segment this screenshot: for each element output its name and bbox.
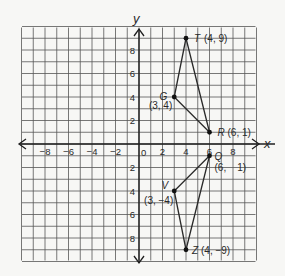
- y-tick-label: 2: [130, 162, 135, 173]
- vertex-point-z: [184, 247, 189, 252]
- vertex-label-z: Z: [191, 245, 199, 256]
- vertex-coordinate-label-q: (6, 1): [215, 162, 247, 173]
- y-tick-label: 4: [130, 186, 135, 197]
- vertex-point-t: [184, 36, 189, 41]
- y-axis-label: y: [132, 11, 141, 26]
- x-tick-label: −6: [63, 146, 74, 157]
- vertex-label-r: R: [218, 127, 225, 138]
- x-tick-label: −4: [87, 146, 98, 157]
- vertex-point-q: [207, 153, 212, 158]
- vertex-point-v: [172, 189, 177, 194]
- origin-label: 0: [141, 147, 146, 158]
- vertex-label-q: Q: [215, 151, 223, 162]
- coordinate-plane: x y 0 −8−6−4−2246824682468 T(4, 9)G(3, 4…: [0, 0, 285, 276]
- x-tick-label: −8: [40, 146, 51, 157]
- vertex-coordinate-label-r: (6, 1): [228, 127, 251, 138]
- x-tick-label: 8: [230, 146, 235, 157]
- vertex-coordinate-label-t: (4, 9): [204, 33, 227, 44]
- y-tick-label: 4: [130, 92, 135, 103]
- vertex-coordinate-label-g: (3, 4): [149, 100, 172, 111]
- vertex-label-v: V: [162, 180, 170, 191]
- y-tick-label: 8: [130, 45, 135, 56]
- x-tick-label: 4: [183, 146, 188, 157]
- y-tick-label: 2: [130, 115, 135, 126]
- vertex-point-g: [172, 95, 177, 100]
- x-axis-label: x: [263, 136, 271, 151]
- x-tick-label: 2: [160, 146, 165, 157]
- vertex-coordinate-label-z: (4, −9): [201, 245, 230, 256]
- vertex-label-t: T: [194, 33, 201, 44]
- y-tick-label: 8: [130, 233, 135, 244]
- vertex-coordinate-label-v: (3, −4): [144, 195, 173, 206]
- y-tick-label: 6: [130, 209, 135, 220]
- y-tick-label: 6: [130, 68, 135, 79]
- x-tick-label: −2: [110, 146, 121, 157]
- vertex-point-r: [207, 130, 212, 135]
